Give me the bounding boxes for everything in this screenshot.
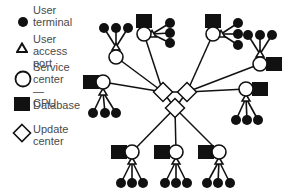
user-terminal-icon	[111, 108, 121, 118]
user-terminal-icon	[138, 178, 148, 188]
user-terminal-icon	[182, 178, 192, 188]
network-diagram	[0, 0, 289, 196]
update-center-icon	[154, 83, 173, 102]
user-terminal-icon	[171, 178, 181, 188]
user-access-port-icon	[256, 51, 264, 58]
user-terminal-icon	[231, 115, 241, 125]
user-terminal-icon	[100, 108, 110, 118]
user-access-port-icon	[112, 44, 120, 51]
user-terminal-icon	[213, 178, 223, 188]
user-terminal-icon	[242, 115, 252, 125]
database-icon	[154, 145, 170, 159]
service-center-icon	[206, 27, 220, 41]
user-terminal-icon	[165, 28, 175, 38]
user-terminal-icon	[202, 178, 212, 188]
user-terminal-icon	[165, 38, 175, 48]
user-terminal-icon	[111, 23, 121, 33]
user-terminal-icon	[233, 18, 243, 28]
database-icon	[266, 57, 282, 71]
user-terminal-icon	[165, 18, 175, 28]
user-terminal-icon	[253, 115, 263, 125]
trunk-link	[144, 34, 163, 92]
service-center-icon	[253, 57, 267, 71]
user-terminal-icon	[88, 108, 98, 118]
user-terminal-icon	[233, 40, 243, 50]
service-center-icon	[96, 75, 110, 89]
service-center-icon	[212, 145, 226, 159]
trunk-link	[116, 57, 163, 92]
service-center-icon	[125, 145, 139, 159]
user-terminal-icon	[233, 29, 243, 39]
update-center-icon	[178, 83, 197, 102]
user-terminal-icon	[116, 178, 126, 188]
database-icon	[252, 82, 268, 96]
user-terminal-icon	[243, 30, 253, 40]
service-center-icon	[137, 27, 151, 41]
user-terminal-icon	[255, 30, 265, 40]
service-center-icon	[169, 145, 183, 159]
database-icon	[136, 14, 152, 28]
database-icon	[205, 14, 221, 28]
service-center-icon	[239, 82, 253, 96]
user-terminal-icon	[225, 178, 235, 188]
user-terminal-icon	[127, 178, 137, 188]
user-terminal-icon	[123, 23, 133, 33]
user-terminal-icon	[160, 178, 170, 188]
user-terminal-icon	[99, 23, 109, 33]
service-center-icon	[109, 50, 123, 64]
user-terminal-icon	[267, 30, 277, 40]
